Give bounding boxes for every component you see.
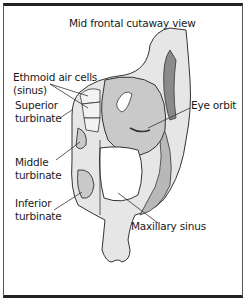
maxillary-sinus: [100, 147, 143, 201]
label-ethmoid: Ethmoid air cells: [13, 71, 97, 84]
label-eye-orbit: Eye orbit: [191, 99, 236, 112]
label-middle: Middle: [15, 156, 48, 169]
label-inferior: Inferior: [15, 197, 51, 210]
sinus-anatomy-illustration: [0, 0, 247, 303]
label-ethmoid-sub: (sinus): [13, 84, 47, 97]
label-inferior-2: turbinate: [15, 210, 62, 223]
label-superior-2: turbinate: [15, 112, 62, 125]
label-maxillary-sinus: Maxillary sinus: [131, 220, 206, 233]
label-middle-2: turbinate: [15, 169, 62, 182]
eye-orbit: [102, 77, 166, 155]
figure-title: Mid frontal cutaway view: [69, 17, 196, 30]
label-superior: Superior: [15, 99, 58, 112]
